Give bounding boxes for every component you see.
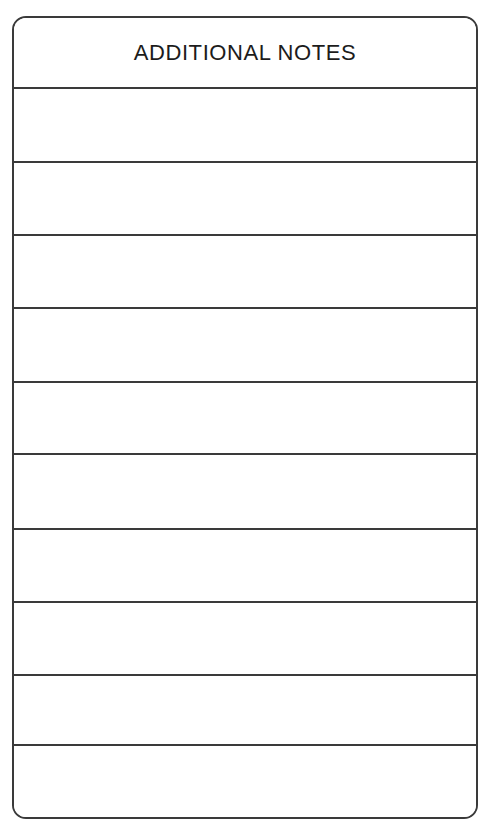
note-row-text xyxy=(14,383,476,388)
note-row[interactable] xyxy=(14,89,476,163)
notes-rows-container xyxy=(14,89,476,817)
note-row-text xyxy=(14,603,476,608)
note-row-text xyxy=(14,163,476,168)
note-row-text xyxy=(14,746,476,751)
note-row-text xyxy=(14,89,476,94)
note-row[interactable] xyxy=(14,383,476,455)
note-row-text xyxy=(14,309,476,314)
note-row[interactable] xyxy=(14,236,476,309)
note-row[interactable] xyxy=(14,163,476,236)
note-row-text xyxy=(14,236,476,241)
note-row[interactable] xyxy=(14,603,476,676)
note-row[interactable] xyxy=(14,676,476,746)
note-row[interactable] xyxy=(14,455,476,530)
note-row-text xyxy=(14,676,476,681)
page-title: ADDITIONAL NOTES xyxy=(134,42,357,64)
note-row[interactable] xyxy=(14,309,476,383)
page-canvas: ADDITIONAL NOTES xyxy=(0,0,492,828)
note-row-text xyxy=(14,455,476,460)
notes-header: ADDITIONAL NOTES xyxy=(14,18,476,89)
note-row[interactable] xyxy=(14,746,476,819)
additional-notes-form: ADDITIONAL NOTES xyxy=(12,16,478,819)
note-row-text xyxy=(14,530,476,535)
note-row[interactable] xyxy=(14,530,476,603)
